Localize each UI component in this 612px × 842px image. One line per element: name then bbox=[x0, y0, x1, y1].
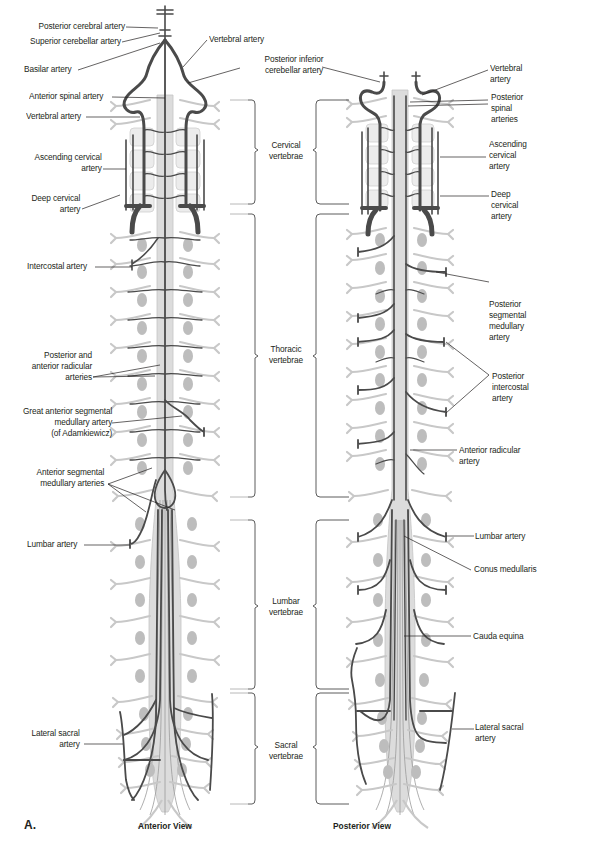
label-line: Ascending cervical bbox=[35, 152, 102, 163]
label-ascending-cervical-artery-posterior: Ascending cervical artery bbox=[489, 139, 527, 172]
region-lumbar-vertebrae: Lumbar vertebrae bbox=[263, 596, 310, 618]
label-line: Lumbar bbox=[263, 596, 310, 607]
label-line: Posterior bbox=[489, 299, 526, 310]
label-line: Posterior bbox=[492, 371, 529, 382]
label-line: cerebellar artery bbox=[249, 65, 339, 76]
label-line: Thoracic bbox=[263, 344, 310, 355]
label-line: Deep bbox=[491, 189, 518, 200]
label-line: artery bbox=[32, 739, 80, 750]
label-lumbar-artery-anterior: Lumbar artery bbox=[27, 539, 77, 550]
label-line: intercostal bbox=[492, 382, 529, 393]
label-superior-cerebellar-artery: Superior cerebellar artery bbox=[30, 36, 121, 47]
label-line: Posterior and bbox=[32, 350, 92, 361]
region-sacral-vertebrae: Sacral vertebrae bbox=[263, 740, 310, 762]
label-ascending-cervical-artery: Ascending cervical artery bbox=[35, 152, 102, 174]
label-posterior-cerebral-artery: Posterior cerebral artery bbox=[39, 21, 125, 32]
label-line: artery bbox=[490, 74, 522, 85]
label-line: Ascending bbox=[489, 139, 527, 150]
label-line: Deep cervical bbox=[31, 193, 80, 204]
label-adamkiewicz-artery: Great anterior segmental medullary arter… bbox=[23, 406, 112, 439]
label-deep-cervical-artery: Deep cervical artery bbox=[31, 193, 80, 215]
label-posterior-inferior-cerebellar-artery: Posterior inferior cerebellar artery bbox=[249, 54, 339, 76]
region-brackets bbox=[230, 100, 349, 804]
label-line: cervical bbox=[491, 200, 518, 211]
label-line: Lateral sacral bbox=[475, 722, 523, 733]
label-anterior-spinal-artery: Anterior spinal artery bbox=[29, 91, 103, 102]
label-intercostal-artery: Intercostal artery bbox=[27, 261, 87, 272]
label-line: medullary arteries bbox=[36, 478, 104, 489]
panel-letter: A. bbox=[24, 818, 36, 832]
label-vertebral-artery: Vertebral artery bbox=[26, 111, 81, 122]
label-line: artery bbox=[475, 733, 523, 744]
label-posterior-intercostal-artery: Posterior intercostal artery bbox=[492, 371, 529, 404]
label-anterior-segmental-medullary-arteries: Anterior segmental medullary arteries bbox=[36, 467, 104, 489]
label-line: (of Adamkiewicz) bbox=[23, 428, 112, 439]
label-line: artery bbox=[459, 456, 520, 467]
label-line: arteries bbox=[491, 114, 523, 125]
label-vertebral-artery-top: Vertebral artery bbox=[209, 34, 264, 45]
label-line: vertebrae bbox=[263, 151, 310, 162]
label-line: Anterior radicular bbox=[459, 445, 520, 456]
label-vertebral-artery-posterior: Vertebral artery bbox=[490, 63, 522, 85]
label-lateral-sacral-artery-anterior: Lateral sacral artery bbox=[32, 728, 80, 750]
posterior-view-caption: Posterior View bbox=[327, 820, 397, 831]
region-thoracic-vertebrae: Thoracic vertebrae bbox=[263, 344, 310, 366]
label-line: Sacral bbox=[263, 740, 310, 751]
label-line: artery bbox=[492, 393, 529, 404]
label-line: vertebrae bbox=[263, 607, 310, 618]
label-line: vertebrae bbox=[263, 355, 310, 366]
region-cervical-vertebrae: Cervical vertebrae bbox=[263, 140, 310, 162]
label-line: Posterior inferior bbox=[249, 54, 339, 65]
label-conus-medullaris: Conus medullaris bbox=[474, 564, 536, 575]
label-line: Posterior bbox=[491, 92, 523, 103]
label-line: cervical bbox=[489, 150, 527, 161]
label-posterior-segmental-medullary-artery: Posterior segmental medullary artery bbox=[489, 299, 526, 343]
label-line: artery bbox=[35, 163, 102, 174]
label-posterior-spinal-arteries: Posterior spinal arteries bbox=[491, 92, 523, 125]
label-line: artery bbox=[489, 332, 526, 343]
label-line: artery bbox=[31, 204, 80, 215]
label-anterior-radicular-artery: Anterior radicular artery bbox=[459, 445, 520, 467]
label-line: Vertebral bbox=[490, 63, 522, 74]
label-line: medullary bbox=[489, 321, 526, 332]
anterior-view-illustration bbox=[111, 6, 219, 828]
label-line: segmental bbox=[489, 310, 526, 321]
label-line: vertebrae bbox=[263, 751, 310, 762]
label-line: medullary artery bbox=[23, 417, 112, 428]
label-line: Anterior segmental bbox=[36, 467, 104, 478]
label-deep-cervical-artery-posterior: Deep cervical artery bbox=[491, 189, 518, 222]
label-basilar-artery: Basilar artery bbox=[24, 64, 71, 75]
label-line: Great anterior segmental bbox=[23, 406, 112, 417]
label-line: artery bbox=[489, 161, 527, 172]
label-radicular-arteries: Posterior and anterior radicular arterie… bbox=[32, 350, 92, 383]
label-lumbar-artery-posterior: Lumbar artery bbox=[475, 531, 525, 542]
label-line: Lateral sacral bbox=[32, 728, 80, 739]
label-lateral-sacral-artery-posterior: Lateral sacral artery bbox=[475, 722, 523, 744]
label-line: anterior radicular bbox=[32, 361, 92, 372]
label-line: Cervical bbox=[263, 140, 310, 151]
anterior-view-caption: Anterior View bbox=[130, 820, 200, 831]
label-line: spinal bbox=[491, 103, 523, 114]
label-line: arteries bbox=[32, 372, 92, 383]
label-cauda-equina: Cauda equina bbox=[473, 631, 523, 642]
label-line: artery bbox=[491, 211, 518, 222]
